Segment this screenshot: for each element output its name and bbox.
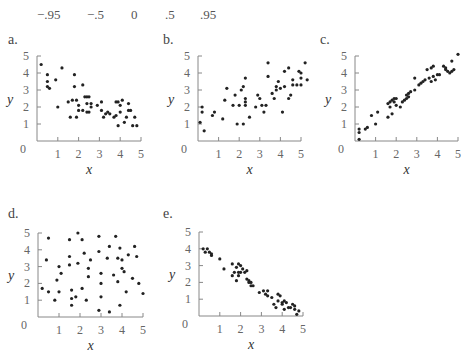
- data-point: [299, 83, 302, 86]
- data-point: [407, 95, 410, 98]
- x-tick-label: 1: [55, 147, 61, 161]
- data-point: [395, 104, 398, 107]
- data-point: [74, 295, 77, 298]
- data-point: [75, 116, 78, 119]
- y-axis-title: y: [323, 92, 332, 107]
- data-point: [432, 75, 435, 78]
- x-tick-label: 4: [279, 322, 285, 336]
- data-point: [76, 262, 79, 265]
- data-point: [222, 267, 225, 270]
- data-point: [203, 129, 206, 132]
- data-point: [452, 68, 455, 71]
- data-point: [295, 313, 298, 316]
- y-tick-label: 3: [184, 83, 190, 97]
- data-point: [60, 66, 63, 69]
- data-point: [96, 104, 99, 107]
- data-point: [211, 114, 214, 117]
- origin-label: 0: [182, 317, 188, 331]
- data-point: [120, 267, 123, 270]
- data-point: [393, 100, 396, 103]
- data-point: [70, 297, 73, 300]
- scatter-plots: 12345123450xy12345123450xy12345123450xy1…: [0, 0, 462, 354]
- data-point: [285, 301, 288, 304]
- data-point: [244, 100, 247, 103]
- data-point: [297, 309, 300, 312]
- data-point: [374, 122, 377, 125]
- data-point: [141, 292, 144, 295]
- x-tick-label: 1: [373, 147, 379, 161]
- data-point: [413, 88, 416, 91]
- data-point: [366, 126, 369, 129]
- data-point: [299, 77, 302, 80]
- data-point: [358, 131, 361, 134]
- data-point: [266, 75, 269, 78]
- data-point: [68, 263, 71, 266]
- data-point: [75, 99, 78, 102]
- data-point: [426, 68, 429, 71]
- data-point: [271, 92, 274, 95]
- data-point: [293, 304, 296, 307]
- data-point: [306, 78, 309, 81]
- y-tick-label: 4: [185, 242, 191, 256]
- origin-label: 0: [181, 142, 187, 156]
- data-point: [218, 257, 221, 260]
- scatter-plot-c: 12345123450xy: [323, 49, 461, 177]
- y-tick-label: 1: [184, 117, 190, 131]
- data-point: [289, 306, 292, 309]
- data-point: [68, 238, 71, 241]
- x-tick-label: 4: [277, 147, 283, 161]
- data-point: [55, 278, 58, 281]
- x-tick-label: 1: [56, 323, 62, 337]
- data-point: [239, 264, 242, 267]
- data-point: [89, 105, 92, 108]
- y-tick-label: 4: [24, 243, 30, 257]
- data-point: [73, 73, 76, 76]
- data-point: [83, 252, 86, 255]
- data-point: [121, 99, 124, 102]
- data-point: [89, 102, 92, 105]
- x-tick-label: 5: [455, 147, 461, 161]
- x-tick-label: 1: [216, 147, 222, 161]
- data-point: [244, 77, 247, 80]
- data-point: [237, 274, 240, 277]
- data-point: [225, 87, 228, 90]
- data-point: [70, 289, 73, 292]
- y-tick-label: 2: [185, 275, 191, 289]
- x-axis-title: x: [86, 338, 94, 353]
- x-axis-title: x: [402, 162, 410, 177]
- data-point: [201, 111, 204, 114]
- data-point: [53, 299, 56, 302]
- x-tick-label: 4: [119, 323, 125, 337]
- data-point: [235, 279, 238, 282]
- y-tick-label: 1: [185, 292, 191, 306]
- y-axis-title: y: [167, 267, 176, 282]
- data-point: [106, 257, 109, 260]
- x-tick-label: 3: [257, 147, 263, 161]
- data-point: [125, 116, 128, 119]
- x-tick-label: 5: [140, 323, 146, 337]
- data-point: [287, 66, 290, 69]
- data-point: [40, 63, 43, 66]
- data-point: [77, 104, 80, 107]
- data-point: [133, 245, 136, 248]
- data-point: [388, 105, 391, 108]
- origin-label: 0: [338, 142, 344, 156]
- data-point: [231, 262, 234, 265]
- data-point: [119, 111, 122, 114]
- data-point: [120, 258, 123, 261]
- data-point: [223, 99, 226, 102]
- data-point: [129, 109, 132, 112]
- data-point: [275, 88, 278, 91]
- x-tick-label: 2: [238, 322, 244, 336]
- x-axis-title: x: [245, 162, 253, 177]
- data-point: [54, 78, 57, 81]
- data-point: [241, 267, 244, 270]
- data-point: [81, 287, 84, 290]
- data-point: [236, 122, 239, 125]
- data-point: [46, 73, 49, 76]
- y-tick-label: 4: [341, 66, 347, 80]
- data-point: [108, 112, 111, 115]
- data-point: [438, 73, 441, 76]
- data-point: [100, 109, 103, 112]
- data-point: [119, 104, 122, 107]
